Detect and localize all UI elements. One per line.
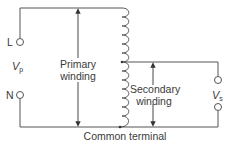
secondary-winding-label: Secondary winding (130, 84, 178, 107)
primary-voltage-label: Vp (12, 61, 23, 75)
primary-voltage-subscript: p (19, 66, 23, 73)
bottom-wire (20, 99, 218, 127)
neutral-terminal (17, 92, 24, 99)
winding-coil (120, 8, 129, 127)
secondary-bottom-terminal (215, 104, 222, 111)
common-terminal-label: Common terminal (80, 131, 170, 142)
neutral-terminal-label: N (6, 90, 14, 101)
line-terminal (17, 39, 24, 46)
primary-winding-label: Primary winding (58, 59, 98, 82)
secondary-top-terminal (215, 77, 222, 84)
primary-winding-line2: winding (58, 71, 98, 82)
tap-wire (122, 62, 218, 76)
secondary-winding-line1: Secondary (130, 84, 178, 95)
secondary-voltage-subscript: s (219, 95, 223, 102)
circuit-diagram (0, 0, 240, 150)
line-terminal-label: L (7, 37, 13, 48)
top-wire (20, 8, 122, 38)
primary-winding-line1: Primary (58, 59, 98, 70)
secondary-winding-line2: winding (130, 96, 178, 107)
secondary-voltage-label: Vs (212, 90, 223, 104)
common-point (119, 126, 122, 129)
